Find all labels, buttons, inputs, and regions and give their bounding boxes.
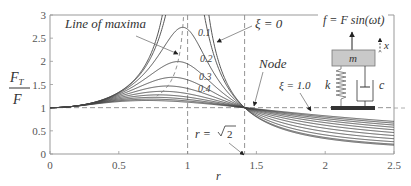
xi-zero-arrow [217,26,252,42]
y-axis-label-numerator: FT [9,70,25,87]
node-arrow [254,72,263,106]
mass-label: m [349,52,357,64]
r-sqrt2-label: r = [195,127,211,141]
x-tick-label: 2.5 [387,159,401,171]
inset-diagram: f = F sin(ωt) m x k c [323,13,389,110]
y-axis-label-denominator: F [12,92,22,107]
y-tick-label: 0 [41,148,47,160]
x-tick-label: 1.5 [250,159,264,171]
xi-one-arrow [300,93,311,111]
xi-zero-label: ξ = 0 [255,16,283,31]
y-tick-label: 1.5 [32,79,46,91]
ground-base [331,106,375,110]
x-tick-label: 0.5 [112,159,126,171]
node-label: Node [258,56,287,71]
displacement-label: x [383,39,389,51]
xi-one-label: ξ = 1.0 [279,79,311,92]
r-sqrt2-value: 2 [227,128,233,140]
transmissibility-chart: 00.511.522.500.511.522.53 FT F r Line of… [0,0,411,186]
x-tick-label: 2 [322,159,328,171]
damping-label-0.1: 0.1 [198,27,211,38]
damper-label: c [379,78,385,92]
x-axis-label: r [216,169,221,183]
line-of-maxima [157,0,186,96]
line-of-maxima-label: Line of maxima [64,16,146,31]
y-tick-label: 3 [41,9,47,21]
x-tick-label: 1 [185,159,191,171]
y-tick-label: 1 [41,102,47,114]
spring [336,66,346,106]
damping-label-0.3: 0.3 [199,71,212,82]
r-sqrt2-arrow [229,143,244,155]
line-of-maxima-arrow [136,36,178,54]
series-line-ξ=0.9 [50,99,394,123]
damping-label-0.4: 0.4 [198,83,211,94]
spring-label: k [325,78,331,92]
y-tick-label: 0.5 [32,125,46,137]
damping-label-0.2: 0.2 [200,53,213,64]
y-tick-label: 2.5 [32,32,46,44]
force-equation: f = F sin(ωt) [323,13,385,27]
y-tick-label: 2 [41,55,47,67]
x-tick-label: 0 [47,159,53,171]
